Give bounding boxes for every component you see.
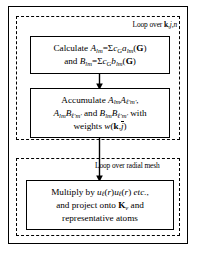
- accumulate-line-1: Accumulate AlmAℓ′m′,: [61, 94, 138, 107]
- accumulate-line-2: AlmBℓ′m′ and BlmBℓ′m′ with: [53, 107, 146, 120]
- calculate-coefficients-box: Calculate Alm=ΣcGalm(G) and Blm=ΣcGblm(G…: [30, 36, 170, 74]
- flowchart-diagram: Loop over k,j,n Loop over radial mesh Ca…: [0, 0, 200, 258]
- multiply-line-3: representative atoms: [62, 212, 138, 224]
- arrow-accumulate-to-multiply: [94, 137, 105, 182]
- loop-label-kjn: Loop over k,j,n: [132, 20, 179, 29]
- accumulate-line-3: weights w(k,j): [73, 120, 126, 132]
- multiply-line-1: Multiply by uℓ(r)uℓ(r) etc.,: [51, 186, 149, 199]
- calculate-line-1: Calculate Alm=ΣcGalm(G): [53, 42, 146, 55]
- multiply-project-box: Multiply by uℓ(r)uℓ(r) etc., and project…: [26, 180, 174, 230]
- accumulate-products-box: Accumulate AlmAℓ′m′, AlmBℓ′m′ and BlmBℓ′…: [30, 88, 170, 138]
- multiply-line-2: and project onto Kv and: [56, 199, 144, 212]
- calculate-line-2: and Blm=ΣcGblm(G): [64, 55, 136, 68]
